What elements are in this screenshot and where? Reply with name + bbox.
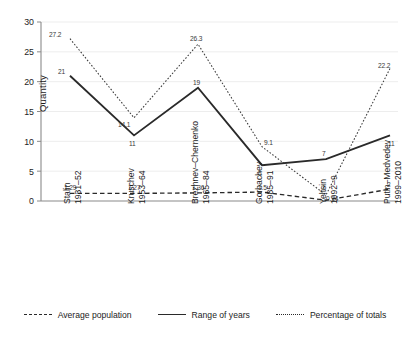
x-tick-stalin-name: Stalin xyxy=(62,190,72,204)
line-chart: Quantity 30 25 20 15 10 5 0 27.2 14.1 26… xyxy=(0,0,410,338)
x-tick-stalin: Stalin 1931–52 xyxy=(62,204,76,214)
legend-key-dashed-icon xyxy=(24,311,52,319)
x-tick-gorbachev-name: Gorbachev xyxy=(254,190,264,204)
x-tick-yeltsin: Yeltsin 1992–9 xyxy=(318,204,332,214)
x-tick-kruschev-name: Kruschev xyxy=(126,190,136,204)
legend-label-percentage-of-totals: Percentage of totals xyxy=(310,310,386,320)
legend-key-dotted-icon xyxy=(276,311,304,319)
x-tick-kruschev-years: 1953–64 xyxy=(137,171,147,204)
data-label-range-4: 7 xyxy=(322,150,326,157)
y-tick-label-0: 0 xyxy=(12,196,34,206)
x-tick-stalin-years: 1931–52 xyxy=(73,171,83,204)
y-tick-label-30: 30 xyxy=(12,17,34,27)
gridlines xyxy=(41,22,398,171)
data-label-pct-0: 27.2 xyxy=(49,31,61,38)
data-label-range-2: 19 xyxy=(193,79,200,86)
y-axis-title: Quantity xyxy=(37,54,48,134)
y-tick-label-10: 10 xyxy=(12,137,34,147)
y-tick-label-5: 5 xyxy=(12,167,34,177)
legend-item-percentage-of-totals: Percentage of totals xyxy=(276,310,386,320)
legend-key-solid-icon xyxy=(158,311,186,319)
data-label-pct-1: 14.1 xyxy=(118,121,130,128)
legend-item-average-population: Average population xyxy=(24,310,132,320)
plot-canvas xyxy=(0,0,410,338)
x-tick-gorbachev: Gorbachev 1985–91 xyxy=(254,204,268,214)
x-tick-yeltsin-name: Yeltsin xyxy=(318,190,328,204)
data-label-range-1: 11 xyxy=(129,140,136,147)
legend-item-range-of-years: Range of years xyxy=(158,310,250,320)
x-tick-kruschev: Kruschev 1953–64 xyxy=(126,204,140,214)
data-label-pct-5: 22.2 xyxy=(378,62,390,69)
x-tick-putin-medvedev-name: Putin–Medvedev xyxy=(382,190,392,204)
x-tick-putin-medvedev-years: 1999–2010 xyxy=(393,161,403,204)
data-label-pct-3: 9.1 xyxy=(264,139,273,146)
x-tick-putin-medvedev: Putin–Medvedev 1999–2010 xyxy=(382,204,396,214)
x-tick-brezhnev-chernenko-years: 1965–84 xyxy=(201,171,211,204)
x-tick-yeltsin-years: 1992–9 xyxy=(329,175,339,204)
data-label-pct-2: 26.3 xyxy=(190,35,202,42)
legend-label-range-of-years: Range of years xyxy=(192,310,250,320)
x-tick-brezhnev-chernenko-name: Brezhnev–Chernenko xyxy=(190,190,200,204)
legend-label-average-population: Average population xyxy=(58,310,132,320)
series-average-population xyxy=(70,189,390,200)
y-tick-label-25: 25 xyxy=(12,47,34,57)
x-tick-gorbachev-years: 1985–91 xyxy=(265,171,275,204)
x-tick-brezhnev-chernenko: Brezhnev–Chernenko 1965–84 xyxy=(190,204,204,214)
y-tick-label-15: 15 xyxy=(12,107,34,117)
chart-legend: Average population Range of years Percen… xyxy=(0,303,410,327)
data-label-range-0: 21 xyxy=(58,68,65,75)
y-tick-label-20: 20 xyxy=(12,77,34,87)
